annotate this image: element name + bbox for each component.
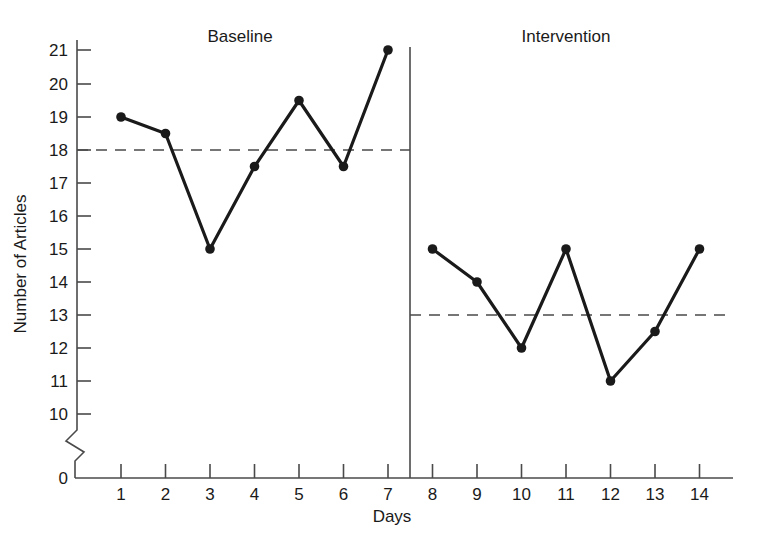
chart-background xyxy=(0,0,757,549)
y-tick-label-14: 14 xyxy=(49,273,68,292)
x-tick-label-3: 3 xyxy=(205,485,214,504)
y-tick-label-19: 19 xyxy=(49,108,68,127)
y-tick-label-15: 15 xyxy=(49,240,68,259)
data-point-day-1 xyxy=(116,112,126,122)
x-tick-label-11: 11 xyxy=(557,485,575,504)
y-tick-label-17: 17 xyxy=(49,174,68,193)
y-tick-label-11: 11 xyxy=(50,372,68,391)
data-point-day-2 xyxy=(161,129,171,139)
y-tick-label-20: 20 xyxy=(49,75,68,94)
y-tick-label-0: 0 xyxy=(59,469,68,488)
chart-container: 21 20 19 18 17 16 15 14 13 12 11 10 0 xyxy=(0,0,757,549)
x-tick-label-13: 13 xyxy=(646,485,665,504)
x-tick-label-7: 7 xyxy=(383,485,392,504)
data-point-day-12 xyxy=(606,376,616,386)
data-point-day-8 xyxy=(428,244,438,254)
x-tick-label-10: 10 xyxy=(512,485,531,504)
y-tick-label-16: 16 xyxy=(49,207,68,226)
data-point-day-3 xyxy=(205,244,215,254)
y-tick-label-13: 13 xyxy=(49,306,68,325)
x-axis-title: Days xyxy=(373,507,412,526)
y-tick-label-12: 12 xyxy=(49,339,68,358)
data-point-day-6 xyxy=(339,162,349,172)
data-point-day-7 xyxy=(383,45,393,55)
x-tick-label-12: 12 xyxy=(601,485,620,504)
phase-label-intervention: Intervention xyxy=(522,27,611,46)
x-tick-label-1: 1 xyxy=(116,485,125,504)
y-tick-label-21: 21 xyxy=(49,41,68,60)
y-tick-label-18: 18 xyxy=(49,141,68,160)
x-tick-label-9: 9 xyxy=(472,485,481,504)
x-tick-label-8: 8 xyxy=(428,485,437,504)
phase-label-baseline: Baseline xyxy=(207,27,272,46)
line-chart: 21 20 19 18 17 16 15 14 13 12 11 10 0 xyxy=(0,0,757,549)
x-tick-label-5: 5 xyxy=(294,485,303,504)
x-tick-label-4: 4 xyxy=(250,485,259,504)
x-tick-label-2: 2 xyxy=(161,485,170,504)
data-point-day-4 xyxy=(250,162,260,172)
x-tick-label-6: 6 xyxy=(339,485,348,504)
y-axis-title: Number of Articles xyxy=(11,195,30,334)
data-point-day-11 xyxy=(561,244,571,254)
data-point-day-13 xyxy=(650,327,660,337)
data-point-day-10 xyxy=(517,343,527,353)
data-point-day-5 xyxy=(294,96,304,106)
y-tick-label-10: 10 xyxy=(49,405,68,424)
data-point-day-9 xyxy=(472,277,482,287)
x-tick-label-14: 14 xyxy=(690,485,709,504)
data-point-day-14 xyxy=(695,244,705,254)
